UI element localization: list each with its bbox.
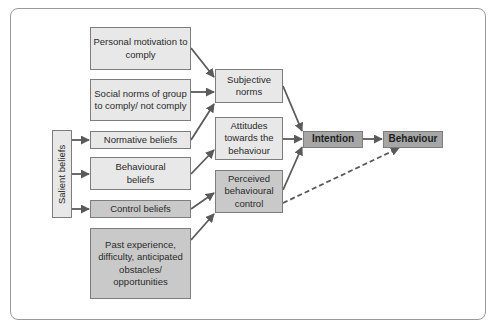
node-control-beliefs: Control beliefs [90,200,191,218]
node-attitudes: Attitudes towards the behaviour [215,117,283,160]
node-perceived-control: Perceived behavioural control [215,170,283,213]
node-label: Control beliefs [110,203,171,216]
node-label: Behavioural beliefs [113,161,168,186]
node-label: Salient beliefs [56,144,69,203]
node-label: Normative beliefs [104,134,177,147]
node-personal-motivation: Personal motivation to comply [90,27,191,70]
node-salient-beliefs: Salient beliefs [52,130,72,218]
node-past-experience: Past experience, difficulty, anticipated… [90,228,191,299]
node-label: Personal motivation to comply [93,36,188,61]
node-label: Past experience, difficulty, anticipated… [97,239,184,289]
node-label: Perceived behavioural control [217,173,281,211]
node-normative-beliefs: Normative beliefs [90,131,191,149]
node-label: Social norms of group to comply/ not com… [93,88,188,113]
node-label: Behaviour [389,133,438,146]
node-behaviour: Behaviour [383,131,443,148]
node-intention: Intention [303,131,363,148]
node-label: Intention [312,133,354,146]
node-social-norms: Social norms of group to comply/ not com… [90,79,191,121]
node-subjective-norms: Subjective norms [215,69,283,103]
node-label: Attitudes towards the behaviour [217,120,281,158]
node-behavioural-beliefs: Behavioural beliefs [90,157,191,190]
diagram-frame [10,8,486,320]
node-label: Subjective norms [222,74,276,99]
